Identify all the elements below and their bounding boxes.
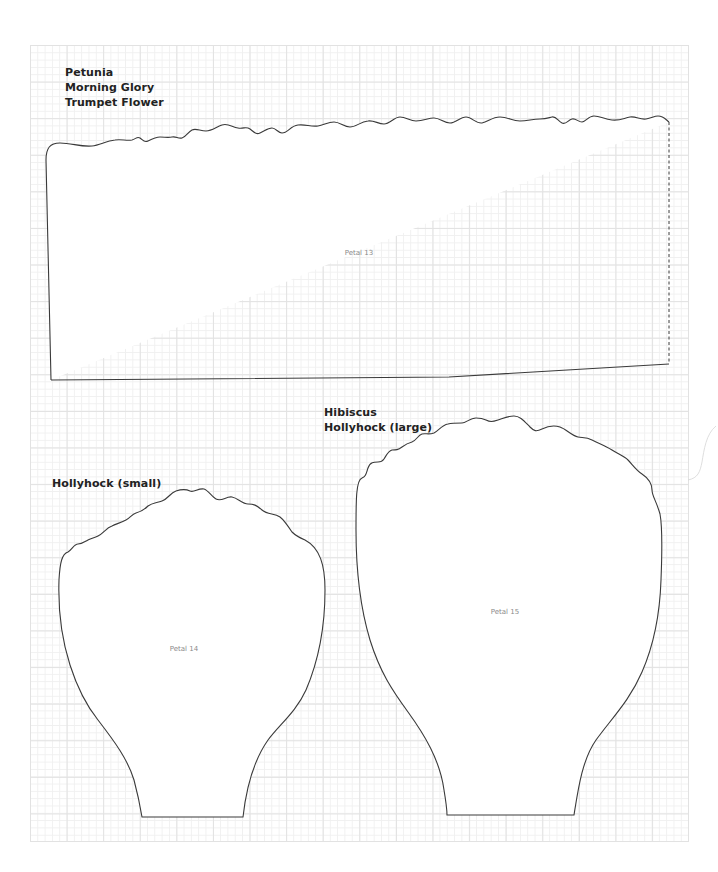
template-page: Petunia Morning Glory Trumpet Flower Hib… <box>0 0 718 872</box>
label-hollyhock-large: Hollyhock (large) <box>324 420 432 435</box>
label-trumpet-flower: Trumpet Flower <box>65 95 164 110</box>
label-hibiscus: Hibiscus <box>324 405 432 420</box>
petal-15-name: Petal 15 <box>491 608 519 616</box>
petal-13-name: Petal 13 <box>345 249 373 257</box>
petal-13-bottom-edge <box>51 364 669 380</box>
group-1-labels: Petunia Morning Glory Trumpet Flower <box>65 65 164 110</box>
stray-guide-line <box>688 426 716 480</box>
label-morning-glory: Morning Glory <box>65 80 164 95</box>
label-hollyhock-small: Hollyhock (small) <box>52 476 161 491</box>
group-2-labels: Hibiscus Hollyhock (large) <box>324 405 432 435</box>
petal-outlines <box>0 0 718 872</box>
petal-13-outline <box>46 116 669 380</box>
group-3-labels: Hollyhock (small) <box>52 476 161 491</box>
label-petunia: Petunia <box>65 65 164 80</box>
petal-14-name: Petal 14 <box>170 645 198 653</box>
